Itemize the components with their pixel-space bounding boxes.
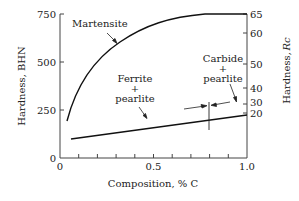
x-axis-title: Composition, % C xyxy=(108,178,199,189)
y-tick-0: 0 xyxy=(50,153,56,164)
rc-tick-65: 65 xyxy=(250,9,263,20)
label-carbide-pearlite: pearlite xyxy=(203,73,242,84)
x-tick-1.0: 1.0 xyxy=(239,161,255,172)
rc-tick-50: 50 xyxy=(250,59,263,70)
rc-tick-20: 20 xyxy=(250,108,263,119)
y2-axis-title-text: Hardness, xyxy=(281,52,292,104)
right-ticks xyxy=(243,14,247,113)
rc-tick-60: 60 xyxy=(250,28,263,39)
x-ticks xyxy=(79,154,229,158)
pearlite-line xyxy=(71,115,247,139)
label-martensite: Martensite xyxy=(72,18,128,29)
label-ferrite-pearlite: pearlite xyxy=(115,93,154,104)
eutectoid-arrows xyxy=(184,102,230,109)
y-tick-250: 250 xyxy=(37,105,56,116)
left-ticks xyxy=(60,14,64,110)
y-tick-500: 500 xyxy=(37,57,56,68)
rc-tick-30: 30 xyxy=(250,97,263,108)
y2-axis-title-rc: Rc xyxy=(281,37,292,52)
rc-tick-40: 40 xyxy=(250,83,263,94)
y2-axis-title: Hardness, Rc xyxy=(281,37,292,104)
y-tick-750: 750 xyxy=(37,9,56,20)
x-tick-0: 0 xyxy=(57,161,63,172)
y-axis-title: Hardness, BHN xyxy=(16,46,27,126)
hardness-chart: 750 500 250 0 65 60 50 40 30 20 0 0.5 1.… xyxy=(0,0,299,201)
x-tick-0.5: 0.5 xyxy=(146,161,162,172)
